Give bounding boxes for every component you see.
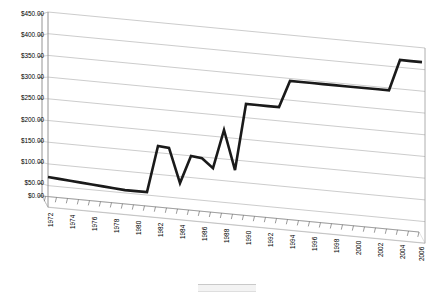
xtick-label-1972: 1972: [48, 213, 54, 227]
xtick-label-1978: 1978: [114, 219, 120, 233]
xtick-label-1996: 1996: [312, 237, 318, 251]
xtick-label-1992: 1992: [268, 233, 274, 247]
xtick-label-1984: 1984: [180, 225, 186, 239]
value-axis-ticks: [38, 14, 42, 196]
ytick-label-200: $200.00: [21, 117, 44, 123]
xtick-label-1980: 1980: [136, 221, 142, 235]
xtick-label-1988: 1988: [224, 229, 230, 243]
xtick-label-2006: 2006: [419, 247, 425, 261]
chart-legend[interactable]: [198, 284, 256, 292]
xtick-label-1986: 1986: [202, 227, 208, 241]
chart-container: $450.00 $400.00 $350.00 $300.00 $250.00 …: [0, 0, 442, 292]
ytick-label-150: $150.00: [21, 138, 44, 144]
chart-plot-area: [0, 0, 442, 292]
xtick-label-2002: 2002: [378, 243, 384, 257]
xtick-label-2004: 2004: [400, 245, 406, 259]
ytick-label-450: $450.00: [21, 11, 44, 17]
chart-left-wall: [42, 12, 48, 207]
xtick-label-2000: 2000: [356, 241, 362, 255]
ytick-label-50: $50.00: [24, 180, 44, 186]
xtick-label-1982: 1982: [158, 223, 164, 237]
xtick-label-1998: 1998: [334, 239, 340, 253]
ytick-label-250: $250.00: [21, 95, 44, 101]
ytick-label-350: $350.00: [21, 53, 44, 59]
xtick-label-1990: 1990: [246, 231, 252, 245]
ytick-label-100: $100.00: [21, 159, 44, 165]
xtick-label-1976: 1976: [92, 217, 98, 231]
ytick-label-0: $0.00: [28, 193, 44, 199]
xtick-label-1974: 1974: [70, 215, 76, 229]
xtick-label-1994: 1994: [290, 235, 296, 249]
ytick-label-400: $400.00: [21, 32, 44, 38]
ytick-label-300: $300.00: [21, 74, 44, 80]
